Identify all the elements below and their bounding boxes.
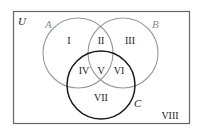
circle-b (88, 18, 158, 88)
circle-c (67, 51, 135, 119)
region-1-label: I (67, 35, 70, 46)
region-6-label: VI (114, 65, 125, 76)
region-7-label: VII (94, 92, 108, 103)
universe-label: U (18, 15, 27, 27)
region-2-label: II (98, 35, 105, 46)
region-3-label: III (125, 35, 135, 46)
set-a-label: A (44, 18, 52, 30)
region-5-label: V (97, 65, 105, 76)
set-c-label: C (134, 97, 142, 109)
region-4-label: IV (79, 65, 90, 76)
region-8-label: VIII (161, 110, 178, 121)
circle-a (43, 18, 113, 88)
venn-diagram: U A B C I II III IV V VI VII VIII (0, 0, 197, 131)
set-b-label: B (152, 18, 159, 30)
